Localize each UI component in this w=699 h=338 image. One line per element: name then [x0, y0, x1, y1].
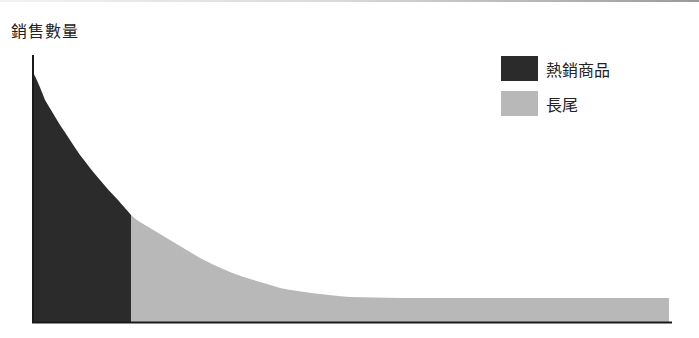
legend-label-long-tail: 長尾	[546, 92, 578, 116]
legend-item-long-tail: 長尾	[501, 91, 610, 116]
legend-swatch-hot-products	[501, 56, 538, 81]
long-tail-chart	[0, 0, 699, 338]
legend-item-hot-products: 熱銷商品	[501, 56, 610, 81]
area-long-tail	[131, 215, 669, 322]
legend-swatch-long-tail	[501, 91, 538, 116]
legend-label-hot-products: 熱銷商品	[546, 57, 610, 81]
legend: 熱銷商品 長尾	[501, 56, 610, 126]
area-hot-products	[33, 72, 131, 322]
